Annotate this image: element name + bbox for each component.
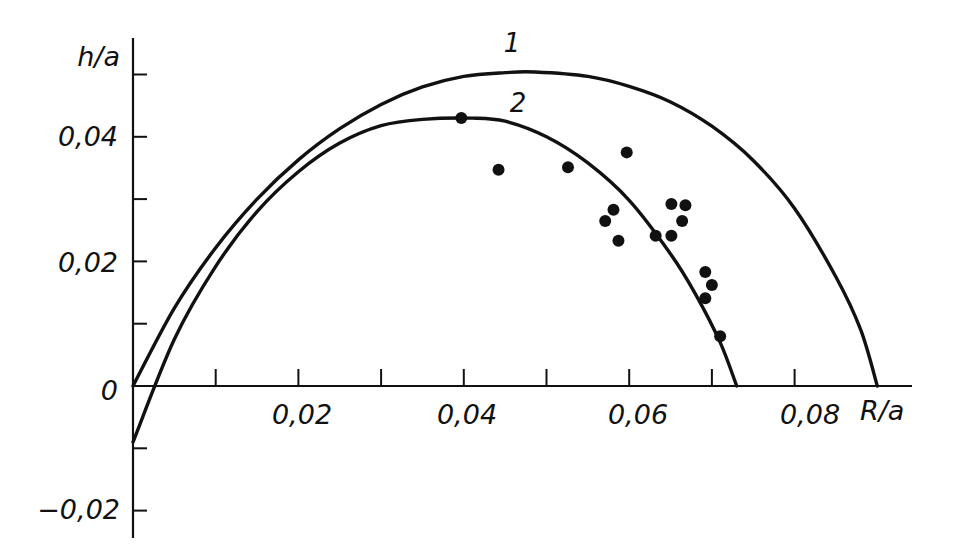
data-point <box>706 279 718 291</box>
curve-2-label: 2 <box>510 88 527 118</box>
y-ticks <box>133 75 147 511</box>
data-point <box>621 146 633 158</box>
y-tick-label-0.02: 0,02 <box>58 247 118 278</box>
data-point <box>699 292 711 304</box>
data-point <box>714 330 726 342</box>
data-point <box>699 266 711 278</box>
y-tick-label-minus-0.02: −0,02 <box>37 494 120 525</box>
data-point <box>455 112 467 124</box>
x-tick-label-0.04: 0,04 <box>437 399 497 430</box>
data-point <box>562 161 574 173</box>
chart: h/a R/a 0,04 0,02 0 −0,02 0,02 0,04 0,06… <box>0 0 957 556</box>
data-point <box>650 230 662 242</box>
data-point <box>665 230 677 242</box>
curve-1-label: 1 <box>504 28 521 58</box>
data-point <box>665 198 677 210</box>
data-point <box>676 215 688 227</box>
y-tick-label-0: 0 <box>101 375 118 406</box>
y-axis-label: h/a <box>77 41 120 72</box>
data-point <box>493 164 505 176</box>
data-point <box>599 215 611 227</box>
x-tick-label-0.02: 0,02 <box>272 399 332 430</box>
data-point <box>607 204 619 216</box>
x-ticks <box>216 369 795 386</box>
x-tick-label-0.08: 0,08 <box>780 399 840 430</box>
data-point <box>612 235 624 247</box>
x-tick-label-0.06: 0,06 <box>608 399 668 430</box>
data-point <box>679 199 691 211</box>
y-tick-label-0.04: 0,04 <box>58 121 118 152</box>
data-points <box>455 112 726 342</box>
curve-2 <box>133 118 737 442</box>
x-axis-label: R/a <box>860 395 904 426</box>
